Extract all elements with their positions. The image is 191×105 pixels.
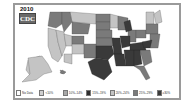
legend-label: 10%–14%: [69, 91, 83, 95]
legend-label: No Data: [22, 91, 33, 95]
legend-label: 25%–29%: [139, 91, 153, 95]
legend-label: 15%–19%: [92, 91, 106, 95]
legend-swatch: [157, 90, 162, 96]
legend-swatch: [16, 90, 21, 96]
legend-item-no-data: No Data: [16, 89, 37, 96]
legend-item-10-14: 10%–14%: [63, 89, 84, 96]
legend-swatch: [86, 90, 91, 96]
legend-swatch: [133, 90, 138, 96]
cdc-logo: CDC: [19, 13, 36, 24]
legend-item-20-24: 20%–24%: [110, 89, 131, 96]
legend-swatch: [110, 90, 115, 96]
legend-swatch: [63, 90, 68, 96]
legend-label: ≥30%: [163, 91, 171, 95]
year-label: 2010: [20, 6, 33, 12]
legend: No Data <10% 10%–14% 15%–19% 20%–24% 25%…: [16, 88, 178, 97]
legend-label: 20%–24%: [116, 91, 130, 95]
legend-item-25-29: 25%–29%: [133, 89, 154, 96]
legend-item-lt10: <10%: [39, 89, 60, 96]
florida: [134, 66, 150, 80]
legend-item-30-plus: ≥30%: [157, 89, 178, 96]
legend-swatch: [39, 90, 44, 96]
legend-label: <10%: [45, 91, 53, 95]
legend-item-15-19: 15%–19%: [86, 89, 107, 96]
